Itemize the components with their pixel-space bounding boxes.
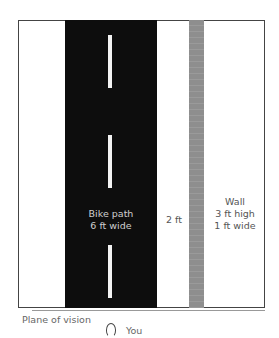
wall-label-line2: 3 ft high (204, 208, 266, 220)
wall-label-line3: 1 ft wide (204, 220, 266, 232)
center-dash-2 (108, 135, 112, 188)
bike-path-label-line1: Bike path (65, 208, 157, 220)
viewer-label: You (126, 325, 156, 337)
wall-label-line1: Wall (204, 196, 266, 208)
bike-path-label-line2: 6 ft wide (65, 220, 157, 232)
plane-of-vision-line (32, 310, 265, 311)
gap-label: 2 ft (160, 214, 188, 226)
plane-of-vision-label: Plane of vision (22, 314, 102, 326)
wall-stripe (189, 20, 204, 308)
viewer-head-icon (106, 323, 116, 337)
wall-label: Wall 3 ft high 1 ft wide (204, 196, 266, 232)
bike-path-label: Bike path 6 ft wide (65, 208, 157, 232)
center-dash-1 (108, 35, 112, 88)
center-dash-3 (108, 245, 112, 298)
